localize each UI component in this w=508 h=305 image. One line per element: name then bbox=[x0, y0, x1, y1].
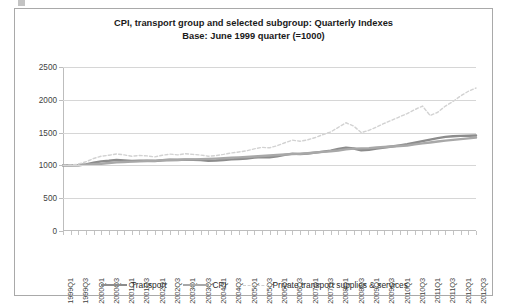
y-axis-tick-label: 1000 bbox=[39, 161, 57, 170]
x-axis-tick bbox=[208, 231, 209, 235]
x-axis-tick bbox=[193, 231, 194, 235]
x-axis-tick bbox=[331, 231, 332, 235]
x-axis-tick bbox=[476, 231, 477, 235]
x-axis-tick bbox=[415, 231, 416, 235]
chart-frame: CPI, transport group and selected subgro… bbox=[14, 8, 493, 296]
x-axis-tick bbox=[117, 231, 118, 235]
x-axis-tick bbox=[109, 231, 110, 235]
legend-item[interactable]: CPI bbox=[183, 280, 227, 290]
x-axis-tick bbox=[300, 231, 301, 235]
y-axis-tick-label: 2500 bbox=[39, 63, 57, 72]
x-axis-tick bbox=[346, 231, 347, 235]
x-axis-labels: 1999Q11999Q32000Q12000Q32001Q12001Q32002… bbox=[63, 236, 476, 280]
x-axis-tick bbox=[231, 231, 232, 235]
x-axis-tick bbox=[292, 231, 293, 235]
x-axis-tick bbox=[162, 231, 163, 235]
x-axis-tick bbox=[270, 231, 271, 235]
x-axis-tick bbox=[124, 231, 125, 235]
x-axis-tick bbox=[438, 231, 439, 235]
x-axis-tick bbox=[422, 231, 423, 235]
x-axis-tick bbox=[384, 231, 385, 235]
x-axis-tick bbox=[315, 231, 316, 235]
x-axis-tick bbox=[461, 231, 462, 235]
x-axis-tick bbox=[132, 231, 133, 235]
x-axis-tick bbox=[361, 231, 362, 235]
x-axis-tick bbox=[224, 231, 225, 235]
x-axis-tick bbox=[338, 231, 339, 235]
y-axis-tick bbox=[59, 165, 63, 166]
x-axis-tick bbox=[407, 231, 408, 235]
x-axis-tick bbox=[277, 231, 278, 235]
legend-item[interactable]: Private transport supplies & services bbox=[243, 280, 408, 290]
gridline bbox=[63, 198, 476, 199]
x-axis-tick bbox=[430, 231, 431, 235]
y-axis-tick bbox=[59, 100, 63, 101]
y-axis-tick-label: 0 bbox=[52, 227, 57, 236]
x-axis-tick bbox=[201, 231, 202, 235]
legend-swatch-icon bbox=[183, 284, 209, 286]
scan-artifact-speck bbox=[18, 0, 25, 6]
gridline bbox=[63, 165, 476, 166]
chart-legend: TransportCPIPrivate transport supplies &… bbox=[15, 277, 494, 293]
y-axis-tick bbox=[59, 198, 63, 199]
x-axis-tick bbox=[392, 231, 393, 235]
x-axis-tick bbox=[71, 231, 72, 235]
y-axis-tick-label: 2000 bbox=[39, 95, 57, 104]
x-axis-tick bbox=[94, 231, 95, 235]
y-axis-tick bbox=[59, 67, 63, 68]
x-axis-tick bbox=[101, 231, 102, 235]
gridline bbox=[63, 133, 476, 134]
legend-swatch-icon bbox=[243, 285, 269, 286]
x-axis-tick bbox=[139, 231, 140, 235]
y-axis-tick bbox=[59, 133, 63, 134]
x-axis-tick bbox=[216, 231, 217, 235]
legend-swatch-icon bbox=[101, 284, 127, 286]
x-axis-tick bbox=[445, 231, 446, 235]
x-axis-tick bbox=[247, 231, 248, 235]
y-axis-tick-label: 1500 bbox=[39, 128, 57, 137]
x-axis-tick bbox=[86, 231, 87, 235]
y-axis-labels: 05001000150020002500 bbox=[15, 9, 63, 297]
legend-label: Private transport supplies & services bbox=[273, 280, 408, 290]
x-axis-tick bbox=[63, 231, 64, 235]
x-axis-tick bbox=[354, 231, 355, 235]
x-axis-tick bbox=[185, 231, 186, 235]
x-axis-tick bbox=[155, 231, 156, 235]
x-axis-tick bbox=[468, 231, 469, 235]
x-axis-tick bbox=[323, 231, 324, 235]
y-axis-tick-label: 500 bbox=[43, 194, 57, 203]
x-axis-tick bbox=[254, 231, 255, 235]
series-layer bbox=[63, 67, 476, 231]
x-axis-tick bbox=[285, 231, 286, 235]
legend-label: Transport bbox=[131, 280, 167, 290]
x-axis-tick bbox=[178, 231, 179, 235]
gridline bbox=[63, 67, 476, 68]
plot-area bbox=[63, 67, 476, 231]
legend-item[interactable]: Transport bbox=[101, 280, 167, 290]
plot-wrapper: 05001000150020002500 1999Q11999Q32000Q12… bbox=[15, 9, 494, 297]
x-axis-tick bbox=[170, 231, 171, 235]
x-axis-tick bbox=[147, 231, 148, 235]
x-axis-tick bbox=[262, 231, 263, 235]
x-axis-tick bbox=[377, 231, 378, 235]
x-axis-tick bbox=[453, 231, 454, 235]
x-axis-tick bbox=[239, 231, 240, 235]
x-axis-tick bbox=[369, 231, 370, 235]
x-axis-tick bbox=[78, 231, 79, 235]
x-axis-tick bbox=[308, 231, 309, 235]
x-axis-tick bbox=[400, 231, 401, 235]
legend-label: CPI bbox=[213, 280, 227, 290]
gridline bbox=[63, 100, 476, 101]
